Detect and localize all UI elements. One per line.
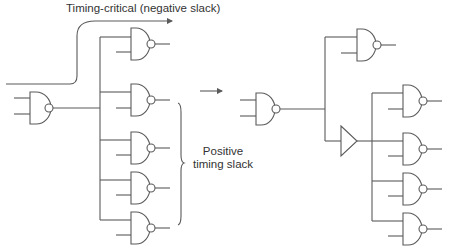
right-direct-load-gate	[325, 29, 396, 61]
left-load-gates	[100, 28, 170, 244]
timing-critical-label: Timing-critical (negative slack)	[66, 2, 220, 15]
positive-slack-line1: Positive	[188, 145, 258, 158]
curly-brace	[178, 103, 184, 225]
right-driver-nand-gate	[240, 93, 325, 125]
right-buffered-load-gates	[372, 85, 442, 245]
right-buffered-gate-3	[372, 173, 442, 205]
left-load-gate-4	[100, 172, 170, 204]
left-load-gate-5	[100, 212, 170, 244]
fanout-buffering-diagram	[0, 0, 450, 252]
left-load-gate-2	[100, 84, 170, 116]
left-driver-nand-gate	[14, 92, 100, 124]
left-load-gate-3	[100, 132, 170, 164]
buffer-triangle-icon	[341, 126, 357, 156]
right-buffered-gate-4	[372, 213, 442, 245]
right-buffered-gate-1	[372, 85, 442, 117]
right-buffered-gate-2	[372, 133, 442, 165]
positive-slack-line2: timing slack	[188, 158, 258, 171]
positive-slack-label: Positive timing slack	[188, 145, 258, 171]
left-load-gate-1	[100, 28, 170, 60]
